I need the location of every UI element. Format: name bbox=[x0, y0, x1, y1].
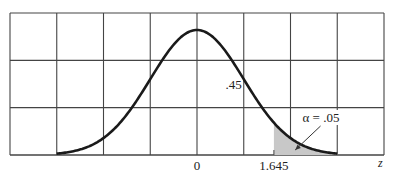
x-tick-label: 0 bbox=[194, 158, 201, 173]
normal-distribution-chart: 01.645 .45 α = .05 z bbox=[0, 0, 403, 183]
x-tick-label: 1.645 bbox=[259, 158, 288, 173]
shaded-tail-region bbox=[274, 123, 337, 155]
grid bbox=[10, 13, 384, 155]
x-axis-label: z bbox=[377, 156, 383, 170]
alpha-label: α = .05 bbox=[303, 110, 340, 125]
x-ticks: 01.645 bbox=[194, 150, 289, 173]
area-label-045: .45 bbox=[225, 77, 241, 92]
